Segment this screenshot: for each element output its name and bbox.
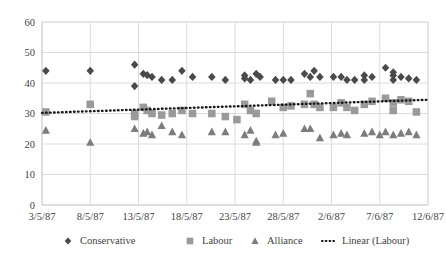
y-tick-label: 60 xyxy=(25,17,36,28)
data-point-diamond xyxy=(316,73,324,81)
data-point-diamond xyxy=(65,237,72,244)
data-point-triangle xyxy=(329,131,337,139)
x-tick-label: 2/6/87 xyxy=(318,211,345,222)
data-point-triangle xyxy=(251,237,258,244)
data-point-triangle xyxy=(397,129,405,137)
data-point-diamond xyxy=(382,64,390,72)
scatter-plot: 0102030405060 3/5/878/5/8713/5/8718/5/87… xyxy=(0,0,446,267)
legend-label: Alliance xyxy=(267,235,303,246)
data-point-diamond xyxy=(131,61,139,69)
data-point-triangle xyxy=(405,127,413,135)
data-point-square xyxy=(233,116,241,124)
chart-legend: ConservativeLabourAllianceLinear (Labour… xyxy=(65,235,410,247)
data-point-triangle xyxy=(221,127,229,135)
data-point-triangle xyxy=(389,131,397,139)
chart-container: 0102030405060 3/5/878/5/8713/5/8718/5/87… xyxy=(0,0,446,267)
data-point-diamond xyxy=(310,67,318,75)
data-point-square xyxy=(389,107,397,115)
data-point-triangle xyxy=(178,131,186,139)
y-tick-label: 40 xyxy=(25,78,36,89)
data-point-triangle xyxy=(368,127,376,135)
data-point-square xyxy=(306,90,314,98)
data-point-triangle xyxy=(381,127,389,135)
x-tick-label: 28/5/87 xyxy=(267,211,299,222)
x-tick-label: 12/6/87 xyxy=(412,211,444,222)
data-point-square xyxy=(208,110,216,118)
data-point-diamond xyxy=(208,73,216,81)
x-tick-label: 18/5/87 xyxy=(171,211,203,222)
data-point-triangle xyxy=(337,129,345,137)
y-tick-label: 0 xyxy=(30,200,35,211)
data-point-diamond xyxy=(397,73,405,81)
data-point-triangle xyxy=(316,134,324,142)
data-point-square xyxy=(131,113,139,121)
legend-label: Labour xyxy=(202,235,233,246)
data-point-square xyxy=(148,110,156,118)
data-point-square xyxy=(351,107,359,115)
series-conservative xyxy=(42,61,420,91)
data-point-triangle xyxy=(306,124,314,132)
x-tick-label: 7/6/87 xyxy=(366,211,393,222)
data-point-triangle xyxy=(158,121,166,129)
data-point-square xyxy=(222,113,230,121)
y-axis-tick-labels: 0102030405060 xyxy=(25,17,36,211)
legend-label: Conservative xyxy=(80,235,136,246)
y-tick-label: 20 xyxy=(25,139,36,150)
data-point-triangle xyxy=(42,126,50,134)
data-point-square xyxy=(316,104,324,112)
data-point-triangle xyxy=(86,138,94,146)
data-point-square xyxy=(189,110,197,118)
data-point-square xyxy=(330,104,338,112)
data-point-triangle xyxy=(271,131,279,139)
data-point-square xyxy=(86,101,94,109)
data-point-diamond xyxy=(86,67,94,75)
data-point-triangle xyxy=(208,127,216,135)
series-alliance xyxy=(42,121,421,145)
x-tick-label: 8/5/87 xyxy=(77,211,104,222)
data-point-square xyxy=(343,104,351,112)
data-point-square xyxy=(187,238,194,245)
data-point-triangle xyxy=(252,138,260,146)
gridlines-group xyxy=(42,22,428,205)
data-point-triangle xyxy=(246,126,254,134)
data-point-square xyxy=(169,110,177,118)
data-point-diamond xyxy=(42,67,50,75)
data-point-square xyxy=(413,108,421,116)
y-tick-label: 10 xyxy=(25,169,36,180)
data-point-diamond xyxy=(330,73,338,81)
data-point-square xyxy=(158,111,166,119)
data-point-diamond xyxy=(189,73,197,81)
data-point-triangle xyxy=(168,127,176,135)
data-point-diamond xyxy=(178,67,186,75)
data-point-diamond xyxy=(368,73,376,81)
y-tick-label: 30 xyxy=(25,108,36,119)
data-point-triangle xyxy=(343,131,351,139)
data-point-diamond xyxy=(405,74,413,82)
x-axis-tick-labels: 3/5/878/5/8713/5/8718/5/8723/5/8728/5/87… xyxy=(29,211,444,222)
data-point-triangle xyxy=(360,129,368,137)
x-tick-label: 13/5/87 xyxy=(122,211,154,222)
data-point-triangle xyxy=(279,129,287,137)
data-point-triangle xyxy=(131,124,139,132)
x-tick-label: 23/5/87 xyxy=(219,211,251,222)
legend-label: Linear (Labour) xyxy=(342,235,410,247)
data-point-square xyxy=(252,110,260,118)
x-tick-label: 3/5/87 xyxy=(29,211,56,222)
data-point-triangle xyxy=(412,131,420,139)
y-tick-label: 50 xyxy=(25,47,36,58)
